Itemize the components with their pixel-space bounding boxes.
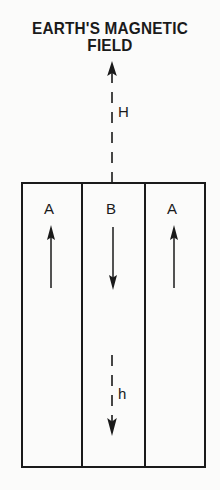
domain-label-a-right: A xyxy=(167,201,177,216)
internal-field-label-h: h xyxy=(118,386,126,401)
external-field-label-H: H xyxy=(118,104,129,119)
domain-arrow-b-centre xyxy=(109,227,117,290)
internal-field-arrow-h xyxy=(107,355,117,436)
domain-label-b-centre: B xyxy=(106,201,116,216)
domain-arrow-a-left xyxy=(47,225,55,288)
external-field-arrow-H xyxy=(107,61,117,183)
diagram-artwork xyxy=(0,0,220,490)
domain-arrow-a-right xyxy=(170,225,178,288)
domain-label-a-left: A xyxy=(44,201,54,216)
magnetic-domain-figure: EARTH'S MAGNETIC FIELD xyxy=(0,0,220,490)
